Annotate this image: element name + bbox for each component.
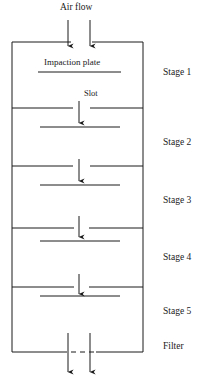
stage-divider-lines — [12, 42, 143, 287]
stage-label-4: Stage 4 — [163, 253, 191, 263]
filter-label: Filter — [163, 342, 184, 352]
stage-label-1: Stage 1 — [163, 68, 191, 78]
air-flow-label: Air flow — [60, 3, 92, 13]
impactor-body-outline — [12, 42, 143, 352]
impactor-schematic-svg — [0, 0, 217, 375]
stage-label-2: Stage 2 — [163, 138, 191, 148]
inlet-airflow-arrows — [68, 20, 90, 46]
stage-label-3: Stage 3 — [163, 196, 191, 206]
stage-label-5: Stage 5 — [163, 307, 191, 317]
cascade-impactor-diagram: Air flow Impaction plateSlot Stage 1Stag… — [0, 0, 217, 375]
slot-label: Slot — [84, 89, 98, 98]
impaction-plate-label: Impaction plate — [44, 58, 100, 67]
